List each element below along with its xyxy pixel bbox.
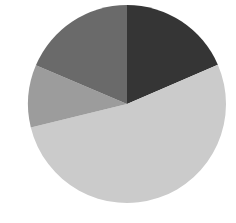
pie-chart <box>0 0 236 223</box>
pie-slices <box>28 5 226 203</box>
